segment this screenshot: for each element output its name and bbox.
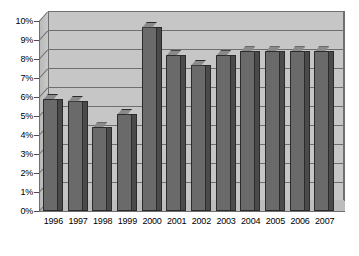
x-axis-tick-label: 2001 [167, 216, 186, 226]
bar-column [166, 55, 181, 211]
bar-face [265, 51, 280, 211]
x-axis-tick-label: 2006 [290, 216, 309, 226]
x-axis-tick-label: 2003 [216, 216, 235, 226]
bar-side [280, 51, 285, 211]
x-axis-tick-label: 1999 [118, 216, 137, 226]
bar-face [166, 55, 181, 211]
x-axis-tick-label: 2000 [142, 216, 161, 226]
bar-side [83, 101, 88, 211]
bar-face [216, 55, 231, 211]
bar-side [157, 27, 162, 211]
bar-column [142, 27, 157, 211]
bar-side [329, 51, 334, 211]
bar-column [290, 51, 305, 211]
bar-face [43, 99, 58, 211]
bar-side [181, 55, 186, 211]
bar-column [314, 51, 329, 211]
x-axis-tick-label: 1998 [93, 216, 112, 226]
bar-side [206, 65, 211, 211]
bar-face [68, 101, 83, 211]
bar-face [92, 127, 107, 211]
bar-column [117, 114, 132, 211]
x-axis-tick-label: 2002 [192, 216, 211, 226]
bar-face [142, 27, 157, 211]
x-axis-tick-label: 1997 [68, 216, 87, 226]
bar-face [240, 51, 255, 211]
bar-column [68, 101, 83, 211]
bar-side [107, 127, 112, 211]
bar-column [265, 51, 280, 211]
bar-column [43, 99, 58, 211]
bar-column [191, 65, 206, 211]
bar-chart: 0%1%2%3%4%5%6%7%8%9%10% 1996199719981999… [0, 0, 359, 256]
bar-side [305, 51, 310, 211]
bar-face [314, 51, 329, 211]
bar-side [132, 114, 137, 211]
x-axis-tick-label: 2007 [315, 216, 334, 226]
x-axis-tick-label: 2005 [266, 216, 285, 226]
x-axis-tick-label: 1996 [44, 216, 63, 226]
bar-side [231, 55, 236, 211]
bar-face [117, 114, 132, 211]
bar-side [58, 99, 63, 211]
bar-face [191, 65, 206, 211]
bar-column [240, 51, 255, 211]
x-axis-labels: 1996199719981999200020012002200320042005… [0, 216, 359, 232]
bar-column [92, 127, 107, 211]
bar-side [255, 51, 260, 211]
bar-face [290, 51, 305, 211]
bar-column [216, 55, 231, 211]
x-axis-tick-label: 2004 [241, 216, 260, 226]
